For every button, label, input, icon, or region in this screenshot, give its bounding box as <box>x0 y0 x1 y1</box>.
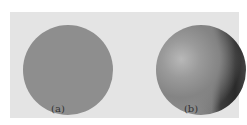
subfigure-label-b: (b) <box>176 103 206 114</box>
subfigure-label-a: (a) <box>43 103 73 114</box>
flat-shaded-sphere <box>23 25 113 115</box>
smooth-shaded-sphere <box>156 25 246 115</box>
